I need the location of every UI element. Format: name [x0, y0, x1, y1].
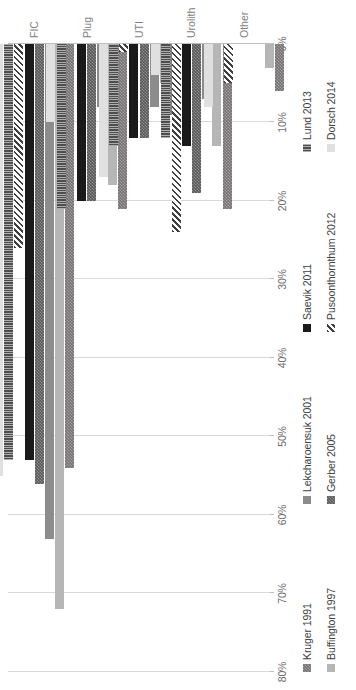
legend-label-saevik: Saevik 2011 [301, 264, 313, 320]
category-label-plug: Plug [81, 17, 93, 38]
legend-item-lekcharoensuk[interactable]: Lekcharoensuk 2001 [301, 396, 313, 504]
bar-dorsch-uti [99, 44, 108, 177]
axis-tick-50 [270, 436, 274, 437]
axis-label-50: 50% [276, 426, 288, 447]
bar-dorsch-fic [0, 44, 3, 476]
category-label-fic: FIC [28, 21, 40, 38]
legend-swatch-kruger-icon [303, 664, 311, 672]
axis-tick-40 [270, 357, 274, 358]
axis-label-30: 30% [276, 269, 288, 290]
bar-dorsch-other [204, 44, 213, 107]
bar-buffington-urolith [212, 44, 221, 146]
chart-legend: Kruger 1991Lekcharoensuk 2001Saevik 2011… [296, 44, 348, 672]
category-label-uti: UTI [133, 21, 145, 38]
axis-tick-30 [270, 279, 274, 280]
legend-swatch-gerber-icon [327, 496, 335, 504]
legend-swatch-lund-icon [303, 144, 311, 152]
legend-label-kruger: Kruger 1991 [301, 603, 313, 660]
bar-lund-plug [57, 44, 66, 209]
legend-item-pusoonthornthum[interactable]: Pusoonthornthum 2012 [325, 213, 337, 332]
legend-label-lekcharoensuk: Lekcharoensuk 2001 [301, 396, 313, 492]
bar-lund-fic [4, 44, 13, 460]
axis-label-20: 20% [276, 191, 288, 212]
legend-label-dorsch: Dorsch 2014 [325, 82, 337, 140]
bar-gerber-fic [35, 44, 44, 484]
legend-label-gerber: Gerber 2005 [325, 434, 337, 492]
bar-lund-urolith [161, 44, 170, 138]
bar-buffington-other [265, 44, 274, 68]
category-label-urolith: Urolith [185, 8, 197, 38]
legend-label-pusoonthornthum: Pusoonthornthum 2012 [325, 213, 337, 320]
chart-stage: 0%10%20%30%40%50%60%70%80%FICPlugUTIUrol… [0, 0, 356, 690]
legend-item-saevik[interactable]: Saevik 2011 [301, 264, 313, 332]
bar-gerber-uti [140, 44, 149, 138]
axis-tick-10 [270, 122, 274, 123]
chart-rotated-canvas: 0%10%20%30%40%50%60%70%80%FICPlugUTIUrol… [0, 0, 356, 690]
axis-tick-70 [270, 593, 274, 594]
category-label-other: Other [238, 12, 250, 38]
legend-swatch-saevik-icon [303, 324, 311, 332]
bar-kruger-fic [65, 44, 74, 468]
bar-pusoonthornthum-fic [14, 44, 23, 248]
bar-saevik-fic [25, 44, 34, 460]
bar-gerber-plug [87, 44, 96, 201]
legend-swatch-dorsch-icon [327, 144, 335, 152]
bar-kruger-plug [118, 44, 127, 209]
legend-row-2: Buffington 1997Gerber 2005Pusoonthornthu… [320, 44, 342, 672]
legend-item-gerber[interactable]: Gerber 2005 [325, 434, 337, 504]
bar-lund-uti [109, 44, 118, 146]
legend-label-lund: Lund 2013 [301, 91, 313, 140]
axis-label-80: 80% [276, 662, 288, 683]
legend-swatch-lekcharoensuk-icon [303, 496, 311, 504]
legend-item-dorsch[interactable]: Dorsch 2014 [325, 82, 337, 152]
legend-swatch-pusoonthornthum-icon [327, 324, 335, 332]
axis-label-40: 40% [276, 348, 288, 369]
bar-kruger-other [275, 44, 284, 91]
gridline-70 [8, 593, 270, 594]
bar-pusoonthornthum-other [224, 44, 233, 83]
axis-tick-20 [270, 200, 274, 201]
legend-label-buffington: Buffington 1997 [325, 588, 337, 660]
legend-row-1: Kruger 1991Lekcharoensuk 2001Saevik 2011… [296, 44, 318, 672]
bar-saevik-plug [77, 44, 86, 201]
bar-dorsch-urolith [151, 44, 160, 75]
legend-swatch-buffington-icon [327, 664, 335, 672]
plot-area: 0%10%20%30%40%50%60%70%80%FICPlugUTIUrol… [8, 44, 270, 672]
bar-gerber-urolith [192, 44, 201, 193]
axis-label-60: 60% [276, 505, 288, 526]
gridline-80 [8, 671, 270, 672]
bar-saevik-uti [129, 44, 138, 138]
axis-label-70: 70% [276, 583, 288, 604]
legend-item-buffington[interactable]: Buffington 1997 [325, 588, 337, 672]
legend-item-lund[interactable]: Lund 2013 [301, 91, 313, 152]
bar-dorsch-plug [46, 44, 55, 123]
axis-label-10: 10% [276, 112, 288, 133]
bar-pusoonthornthum-uti [119, 44, 128, 52]
axis-tick-80 [270, 671, 274, 672]
bar-pusoonthornthum-urolith [172, 44, 181, 232]
bar-saevik-urolith [182, 44, 191, 146]
axis-tick-60 [270, 514, 274, 515]
chart-figure: 0%10%20%30%40%50%60%70%80%FICPlugUTIUrol… [0, 0, 356, 690]
legend-item-kruger[interactable]: Kruger 1991 [301, 603, 313, 672]
